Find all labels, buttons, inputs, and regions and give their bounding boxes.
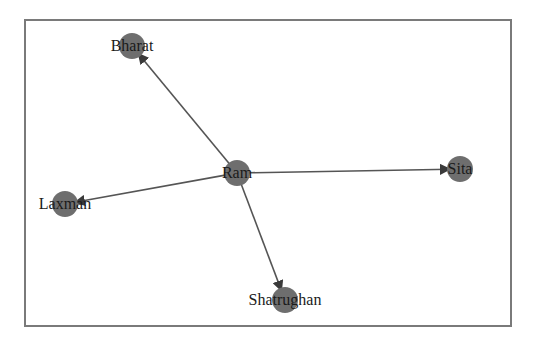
node-label-bharat: Bharat — [111, 37, 154, 54]
node-label-shatrughan: Shatrughan — [249, 291, 322, 309]
node-label-sita: Sita — [448, 160, 473, 177]
edges-group — [75, 54, 450, 291]
edge-ram-to-shatrughan — [241, 184, 281, 290]
node-label-ram: Ram — [222, 164, 253, 181]
edge-ram-to-laxman — [75, 175, 225, 202]
edge-ram-to-sita — [249, 169, 450, 173]
network-graph: RamBharatSitaLaxmanShatrughan — [0, 0, 534, 351]
node-label-laxman: Laxman — [39, 195, 91, 212]
edge-ram-to-bharat — [138, 54, 229, 164]
